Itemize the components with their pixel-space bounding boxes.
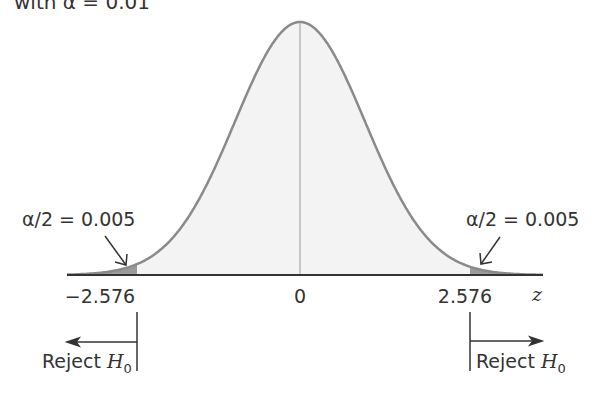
tick-label-left: −2.576 (65, 285, 135, 307)
alpha-label-left: α/2 = 0.005 (22, 208, 135, 230)
right-pointer-arrow (480, 237, 500, 264)
non-rejection-region (137, 22, 470, 275)
axis-variable-label: z (531, 283, 543, 305)
tick-label-zero: 0 (294, 285, 306, 307)
normal-distribution-diagram: −2.576 0 2.576 z α/2 = 0.005 α/2 = 0.005… (0, 0, 596, 395)
alpha-label-right: α/2 = 0.005 (466, 208, 579, 230)
right-reject-arrow (470, 337, 542, 345)
left-reject-arrow (67, 338, 137, 346)
left-pointer-arrow (105, 236, 127, 265)
tick-label-right: 2.576 (438, 285, 492, 307)
reject-label-left: Reject H0 (42, 350, 132, 376)
reject-label-right: Reject H0 (476, 350, 566, 376)
